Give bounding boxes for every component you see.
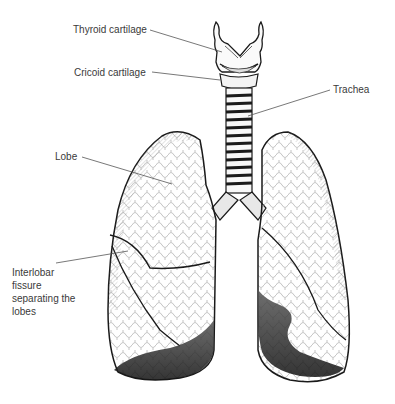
- label-trachea: Trachea: [333, 84, 369, 96]
- lung-diagram: Thyroid cartilage Cricoid cartilage Trac…: [0, 0, 395, 404]
- leader-thyroid: [150, 30, 222, 52]
- left-lung: [258, 132, 350, 382]
- label-interlobar-fissure: Interlobar fissure separating the lobes: [12, 266, 82, 318]
- leader-cricoid: [152, 72, 220, 80]
- label-thyroid-cartilage: Thyroid cartilage: [73, 24, 147, 36]
- larynx: [214, 22, 264, 89]
- label-lobe: Lobe: [55, 151, 77, 163]
- lung-illustration: [0, 0, 395, 404]
- right-lung: [108, 132, 216, 380]
- trachea: [212, 88, 266, 220]
- leader-trachea: [248, 90, 330, 116]
- label-cricoid-cartilage: Cricoid cartilage: [74, 67, 146, 79]
